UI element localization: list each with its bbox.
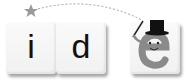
- dashed-arc: [34, 4, 142, 20]
- mascot-e-icon: [134, 35, 166, 65]
- star-icon: [24, 4, 38, 17]
- logo-graphics: [0, 0, 192, 84]
- top-hat-icon: [145, 20, 169, 36]
- wand-icon: [133, 21, 143, 37]
